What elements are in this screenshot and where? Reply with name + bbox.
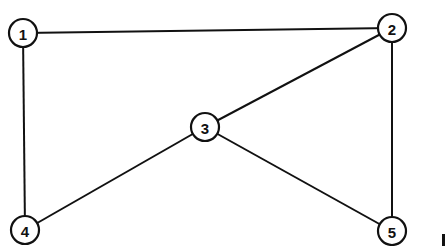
node-4: 4 bbox=[11, 216, 39, 244]
edge-1-4 bbox=[23, 33, 25, 230]
node-1: 1 bbox=[9, 19, 37, 47]
node-label: 1 bbox=[19, 26, 27, 43]
nodes-layer: 12345 bbox=[9, 14, 406, 245]
edge-3-5 bbox=[205, 127, 392, 231]
node-label: 2 bbox=[388, 21, 396, 38]
node-2: 2 bbox=[378, 14, 406, 42]
node-5: 5 bbox=[378, 217, 406, 245]
edge-1-2 bbox=[23, 28, 392, 33]
node-3: 3 bbox=[191, 113, 219, 141]
edge-2-3 bbox=[205, 28, 392, 127]
node-label: 5 bbox=[388, 224, 396, 241]
edge-3-4 bbox=[25, 127, 205, 230]
node-label: 4 bbox=[21, 223, 30, 240]
graph-diagram: 12345 bbox=[0, 0, 445, 246]
node-label: 3 bbox=[201, 120, 209, 137]
